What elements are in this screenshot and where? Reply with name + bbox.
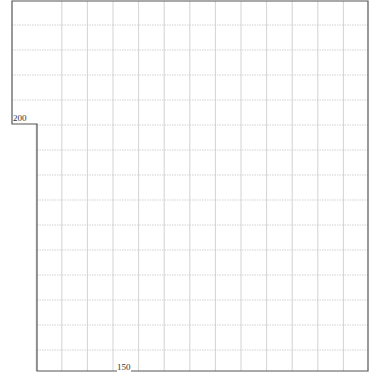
grid-sheet (0, 0, 369, 387)
left-dimension-label: 200 (13, 114, 27, 123)
grid-lines (12, 1, 368, 371)
bottom-dimension-label: 150 (117, 363, 131, 372)
